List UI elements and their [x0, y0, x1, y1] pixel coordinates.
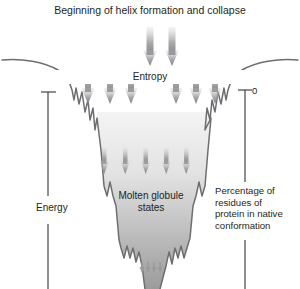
- percentage-axis-label: Percentage of residues of protein in nat…: [215, 185, 299, 232]
- energy-axis: [41, 92, 56, 289]
- entropy-label-text: Entropy: [128, 71, 172, 82]
- figure-title: Beginning of helix formation and collaps…: [0, 4, 300, 16]
- entropy-label: Entropy: [0, 70, 300, 84]
- energy-axis-label: Energy: [33, 200, 71, 216]
- down-arrow-icon: [143, 27, 157, 66]
- down-arrow-icon: [165, 27, 179, 66]
- protein-folding-funnel-figure: Beginning of helix formation and collaps…: [0, 0, 300, 289]
- molten-globule-label: Molten globule states: [103, 190, 199, 214]
- zero-tick-label: 0: [252, 85, 257, 96]
- top-arrows: [143, 27, 179, 66]
- funnel-diagram-svg: [0, 0, 300, 289]
